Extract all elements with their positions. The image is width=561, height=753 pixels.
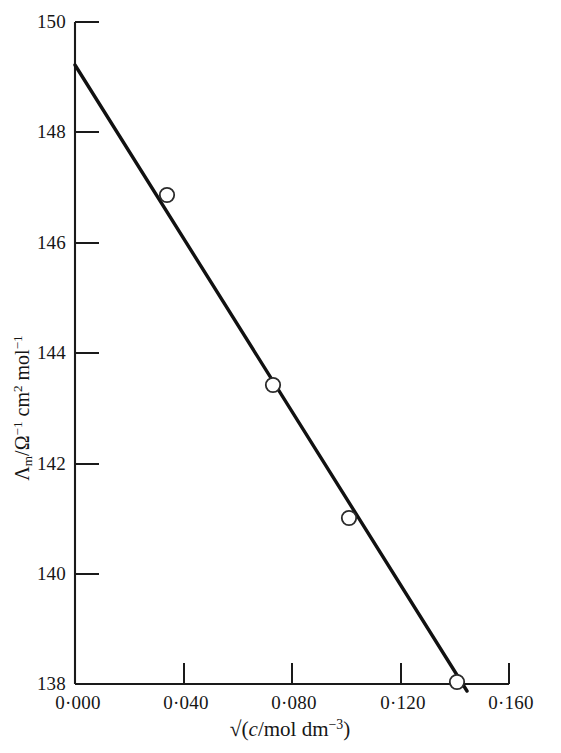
- data-point: [160, 188, 174, 202]
- y-axis-title-ohm-exponent: −1: [10, 421, 25, 435]
- y-axis-title-subscript-m: m: [20, 456, 35, 466]
- x-axis-title: √(c/mol dm−3): [230, 717, 351, 742]
- x-tick-label-0-160: 0·160: [488, 692, 533, 714]
- conductivity-chart-figure: 150 148 146 144 142 140 138 0·000 0·040 …: [0, 0, 561, 753]
- data-point: [342, 511, 356, 525]
- y-tick-label-140: 140: [8, 563, 66, 585]
- y-tick-label-146: 146: [8, 232, 66, 254]
- x-axis-title-radical: √(: [230, 717, 249, 741]
- y-axis-title-lambda: Λ: [11, 466, 33, 481]
- y-axis-title-mol-exponent: −1: [10, 335, 25, 349]
- x-tick-label-0-080: 0·080: [271, 692, 316, 714]
- y-axis-title-ohm: /Ω: [11, 436, 33, 456]
- x-axis-title-variable: c: [249, 717, 258, 741]
- data-point: [266, 378, 280, 392]
- x-axis-title-exponent: −3: [329, 717, 344, 732]
- x-tick-label-0-040: 0·040: [163, 692, 208, 714]
- plot-canvas: [0, 0, 561, 753]
- x-axis-title-close-paren: ): [343, 717, 350, 741]
- y-axis-title-cm: cm: [11, 392, 33, 421]
- x-axis-title-units: /mol dm: [258, 717, 329, 741]
- y-axis-title: Λm/Ω−1 cm2 mol−1: [11, 335, 34, 480]
- x-tick-label-0-120: 0·120: [380, 692, 425, 714]
- y-tick-label-150: 150: [8, 11, 66, 33]
- y-axis-title-mol: mol: [11, 349, 33, 385]
- x-tick-label-0-000: 0·000: [55, 692, 100, 714]
- data-point: [450, 675, 464, 689]
- y-tick-label-148: 148: [8, 121, 66, 143]
- y-axis-title-cm-exponent: 2: [10, 385, 25, 392]
- y-tick-marks: [75, 22, 99, 574]
